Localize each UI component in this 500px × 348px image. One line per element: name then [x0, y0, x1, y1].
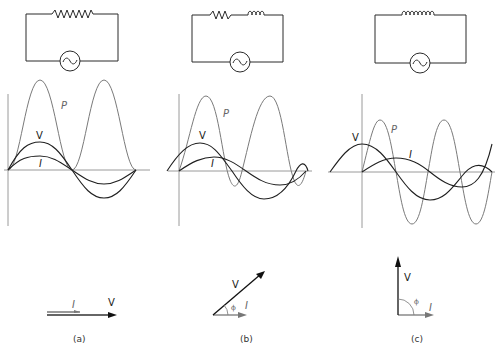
voltage-label-c: V	[352, 133, 359, 143]
current-label-a: I	[39, 159, 42, 169]
current-label-b: I	[211, 159, 214, 169]
voltage-label-b: V	[199, 131, 206, 141]
axes-b	[168, 94, 312, 226]
power-label-b: P	[223, 109, 229, 119]
ac-source-icon	[60, 51, 80, 71]
resistor-icon	[210, 11, 248, 19]
caption-b: (b)	[240, 334, 253, 344]
circuit-b	[192, 11, 283, 72]
panel-b	[167, 11, 312, 318]
wire	[430, 15, 466, 63]
wire	[375, 15, 410, 63]
phasor-current-label-a: I	[72, 300, 75, 310]
ac-source-icon	[230, 52, 250, 72]
inductor-icon	[248, 11, 266, 15]
inductor-icon	[402, 11, 438, 15]
phase-angle-label-c: ϕ	[414, 298, 419, 306]
wire	[26, 14, 60, 61]
current-label-c: I	[409, 150, 412, 160]
resistor-icon	[52, 10, 93, 18]
circuit-a	[26, 10, 118, 71]
panel-a	[4, 10, 150, 318]
arrowhead-icon	[395, 256, 401, 267]
caption-a: (a)	[73, 334, 86, 344]
arrowhead-icon	[108, 312, 117, 318]
voltage-label-a: V	[36, 131, 43, 141]
phase-angle-label-b: ϕ	[231, 304, 236, 312]
power-label-a: P	[61, 101, 67, 111]
phasor-diagram-b	[213, 271, 265, 318]
phasor-diagram-a	[47, 310, 117, 318]
ac-circuits-diagram	[0, 0, 500, 348]
phasor-voltage-label-b: V	[232, 280, 239, 290]
phasor-current-label-c: I	[429, 303, 432, 313]
phase-angle-arc-c	[398, 299, 414, 315]
phasor-voltage-label-a: V	[108, 298, 115, 308]
arrowhead-icon	[238, 312, 247, 318]
wire	[80, 14, 118, 61]
circuit-c	[375, 11, 466, 73]
power-label-c: P	[391, 125, 397, 135]
caption-c: (c)	[411, 334, 423, 344]
phasor-current-label-b: I	[245, 301, 248, 311]
wire	[250, 15, 283, 62]
phase-angle-arc-b	[224, 305, 228, 315]
ac-source-icon	[410, 53, 430, 73]
power-curve-a	[8, 80, 136, 170]
power-curve-b	[179, 96, 306, 186]
wire	[192, 15, 230, 62]
phasor-voltage-label-c: V	[404, 273, 411, 283]
panel-c	[328, 11, 495, 318]
